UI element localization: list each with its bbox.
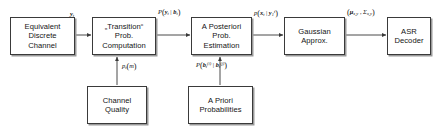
edge-label-gaussian-params: (μx,y , Σx,y) [347,8,375,17]
block-line: Prob. [115,31,133,40]
edge-label-transition-prob: P(yt | bt) [158,8,180,17]
block-line: Quality [105,105,129,114]
edge-label-a-priori-prob: P(bt(i) | bt(j)) [196,60,227,70]
block-line: Channel [28,41,57,50]
edge-label-posterior-prob: p(xt | y1t) [254,8,278,18]
block-line: Channel [103,96,132,105]
block-line: Gaussian [298,27,330,36]
block-line: Prob. [212,31,230,40]
block-line: Approx. [301,36,328,45]
block-a-priori-probabilities: A Priori Probabilities [188,86,253,124]
block-asr-decoder: ASR Decoder [387,17,431,55]
block-line: „Transition“ [105,22,144,31]
edge-label-channel-quality-metric: pt(m) [122,62,137,71]
block-line: Computation [102,41,146,50]
block-diagram: Equivalent Discrete Channel „Transition“… [0,0,439,135]
block-transition-prob-computation: „Transition“ Prob. Computation [92,17,156,55]
block-line: ASR [401,27,417,36]
block-a-posteriori-prob-estimation: A Posteriori Prob. Estimation [191,17,252,55]
block-line: Decoder [394,36,423,45]
block-line: Discrete [28,31,56,40]
block-line: A Posteriori [202,22,241,31]
block-channel-quality: Channel Quality [87,86,147,124]
block-line: Probabilities [199,105,241,114]
block-equivalent-discrete-channel: Equivalent Discrete Channel [10,17,75,55]
block-line: A Priori [208,96,233,105]
block-gaussian-approx: Gaussian Approx. [284,17,345,55]
edge-label-signal-y-t: yt [70,10,74,19]
block-line: Estimation [204,41,240,50]
block-line: Equivalent [25,22,61,31]
